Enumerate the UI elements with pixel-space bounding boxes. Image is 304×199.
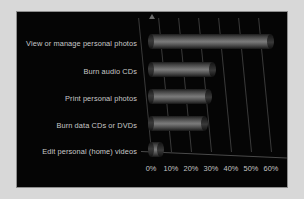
bar-end-cap <box>157 142 164 157</box>
bar-start-cap <box>148 34 154 49</box>
value-tick-label: 60% <box>264 164 279 174</box>
bar <box>151 62 213 77</box>
category-label: Edit personal (home) videos <box>17 147 137 156</box>
bar <box>151 116 205 131</box>
category-label: Print personal photos <box>17 94 137 103</box>
value-tick-label: 40% <box>224 164 239 174</box>
value-tick-label: 20% <box>184 164 199 174</box>
bar-end-cap <box>201 116 208 131</box>
category-label: Burn data CDs or DVDs <box>17 121 137 130</box>
value-tick-label: 30% <box>204 164 219 174</box>
bar-start-cap <box>148 89 154 104</box>
bar <box>151 89 209 104</box>
bar-end-cap <box>205 89 212 104</box>
bar <box>151 34 271 49</box>
bar-end-cap <box>209 62 216 77</box>
category-label: Burn audio CDs <box>17 67 137 76</box>
plot-area <box>141 18 287 162</box>
bar-start-cap <box>148 62 154 77</box>
chart-panel: View or manage personal photosBurn audio… <box>16 11 288 188</box>
value-axis-arrow-icon <box>149 14 155 19</box>
chart-screenshot: View or manage personal photosBurn audio… <box>0 0 304 199</box>
value-tick-label: 0% <box>146 164 157 174</box>
category-axis-labels: View or manage personal photosBurn audio… <box>17 12 141 162</box>
bar-start-cap <box>148 116 154 131</box>
category-label: View or manage personal photos <box>17 39 137 48</box>
bar-start-cap <box>148 142 154 157</box>
value-axis-tick-labels: 0%10%20%30%40%50%60% <box>141 164 287 178</box>
bar <box>151 142 161 157</box>
bar-end-cap <box>267 34 274 49</box>
value-tick-label: 10% <box>164 164 179 174</box>
value-tick-label: 50% <box>244 164 259 174</box>
